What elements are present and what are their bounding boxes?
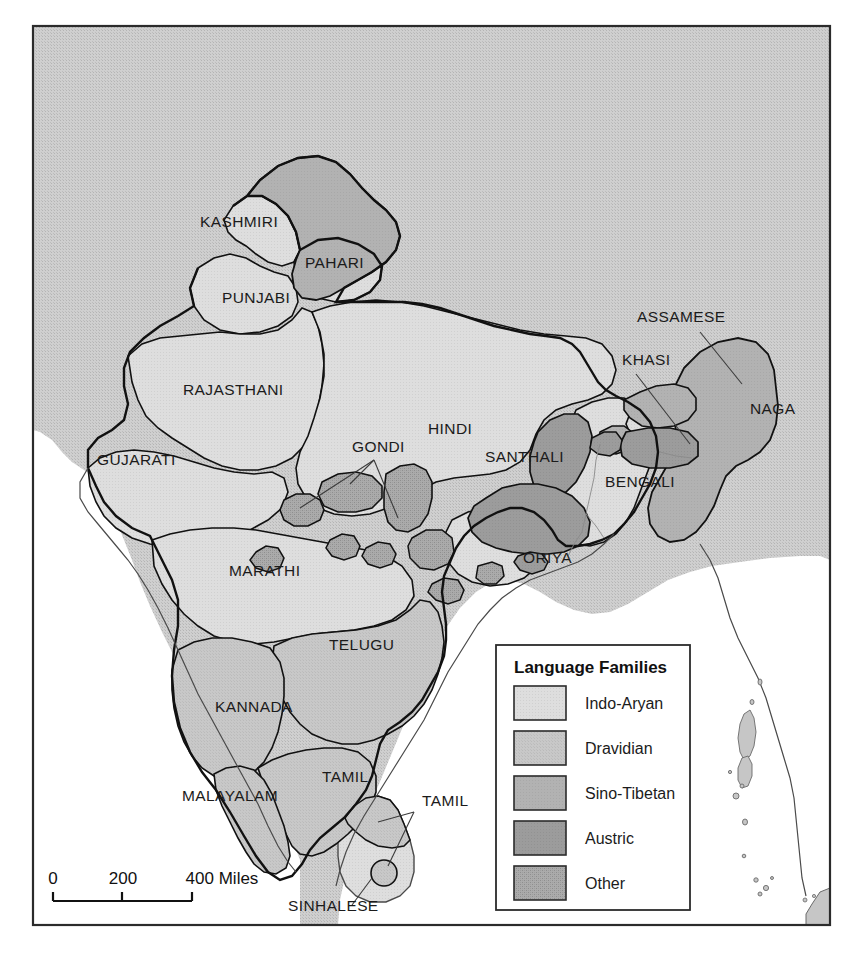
- map-label-tamil-sri-lanka: TAMIL: [422, 792, 469, 809]
- map-label-bengali: BENGALI: [605, 473, 675, 490]
- legend-swatch-other: [514, 866, 566, 900]
- island-small-sumatra: [803, 898, 807, 902]
- map-label-santhali: SANTHALI: [485, 448, 564, 465]
- map-label-malayalam: MALAYALAM: [182, 787, 278, 804]
- legend-swatch-indo-aryan: [514, 686, 566, 720]
- region-khasi: [620, 428, 698, 468]
- map-label-assamese: ASSAMESE: [637, 308, 725, 325]
- map-label-pahari: PAHARI: [305, 254, 364, 271]
- legend-label-dravidian: Dravidian: [585, 740, 653, 757]
- map-label-kannada: KANNADA: [215, 698, 293, 715]
- map-label-naga: NAGA: [750, 400, 796, 417]
- map-figure: KASHMIRI PAHARI PUNJABI RAJASTHANI GUJAR…: [0, 0, 865, 963]
- region-gondi-west: [280, 494, 324, 526]
- map-label-tamil-mainland: TAMIL: [322, 768, 369, 785]
- scale-tick-label-0: 0: [48, 869, 57, 888]
- map-label-rajasthani: RAJASTHANI: [183, 381, 283, 398]
- legend: Language Families Indo-Aryan Dravidian S…: [496, 645, 690, 910]
- map-label-gondi: GONDI: [352, 438, 405, 455]
- map-label-kashmiri: KASHMIRI: [200, 213, 278, 230]
- map-label-khasi: KHASI: [622, 351, 671, 368]
- map-label-marathi: MARATHI: [229, 562, 300, 579]
- map-label-punjabi: PUNJABI: [222, 289, 290, 306]
- map-label-sinhalese: SINHALESE: [288, 897, 379, 914]
- legend-label-indo-aryan: Indo-Aryan: [585, 695, 663, 712]
- map-label-gujarati: GUJARATI: [97, 451, 176, 468]
- region-other-patch-f: [476, 562, 504, 584]
- map-label-telugu: TELUGU: [329, 636, 394, 653]
- legend-label-sino-tibetan: Sino-Tibetan: [585, 785, 675, 802]
- legend-swatch-austric: [514, 821, 566, 855]
- map-body: [33, 26, 830, 925]
- map-label-oriya: ORIYA: [523, 549, 572, 566]
- legend-title: Language Families: [514, 658, 667, 677]
- scale-tick-label-400-miles: 400 Miles: [186, 869, 259, 888]
- legend-label-other: Other: [585, 875, 626, 892]
- region-tamil-sri-lanka-inland: [371, 860, 397, 886]
- legend-label-austric: Austric: [585, 830, 634, 847]
- island-small-sumatra-2: [812, 894, 815, 897]
- map-label-hindi: HINDI: [428, 420, 472, 437]
- map-canvas: KASHMIRI PAHARI PUNJABI RAJASTHANI GUJAR…: [0, 0, 865, 963]
- scale-tick-label-200: 200: [109, 869, 137, 888]
- legend-swatch-dravidian: [514, 731, 566, 765]
- legend-swatch-sino-tibetan: [514, 776, 566, 810]
